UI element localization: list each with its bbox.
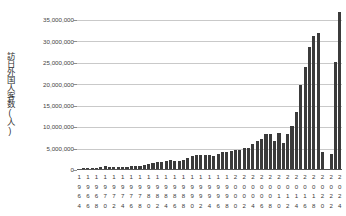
x-tick-digit: 6 — [93, 191, 100, 201]
x-tick-digit: 9 — [171, 182, 178, 192]
chart-container: 訪日外国人客数(人) 35,000,00030,000,00025,000,00… — [0, 0, 346, 216]
x-tick-digit: 9 — [189, 182, 196, 192]
bar — [273, 141, 276, 170]
x-tick-label: 1976 — [128, 172, 135, 210]
y-tick-mark — [73, 20, 77, 21]
x-tick-digit: 1 — [197, 172, 204, 182]
x-tick-label: 1974 — [119, 172, 126, 210]
bar — [299, 85, 302, 170]
x-tick-digit: 8 — [180, 201, 187, 211]
bar — [277, 133, 280, 170]
x-tick-digit: 1 — [154, 172, 161, 182]
bar — [251, 144, 254, 170]
bar — [256, 141, 259, 170]
gridline — [77, 20, 342, 21]
bar — [217, 154, 220, 170]
bar — [308, 47, 311, 170]
bar — [221, 152, 224, 170]
x-tick-label: 2010 — [276, 172, 283, 210]
x-tick-digit: 0 — [302, 182, 309, 192]
y-tick-mark — [73, 41, 77, 42]
bar — [225, 152, 228, 170]
x-tick-digit: 2 — [284, 172, 291, 182]
x-tick-digit: 2 — [328, 172, 335, 182]
x-tick-digit: 1 — [128, 172, 135, 182]
x-tick-label: 1966 — [84, 172, 91, 210]
x-tick-digit: 6 — [302, 201, 309, 211]
x-tick-label: 2012 — [284, 172, 291, 210]
y-tick-mark — [73, 106, 77, 107]
x-tick-digit: 6 — [128, 201, 135, 211]
x-tick-label: 1994 — [206, 172, 213, 210]
x-tick-digit: 9 — [128, 182, 135, 192]
x-tick-digit: 6 — [215, 201, 222, 211]
x-tick-digit: 6 — [84, 201, 91, 211]
x-tick-digit: 2 — [302, 172, 309, 182]
x-tick-digit: 4 — [163, 201, 170, 211]
x-tick-digit: 0 — [249, 191, 256, 201]
y-tick-label: 25,000,000 — [16, 59, 74, 66]
x-tick-digit: 8 — [154, 191, 161, 201]
x-tick-digit: 1 — [310, 191, 317, 201]
bar — [317, 33, 320, 170]
x-tick-label: 2024 — [336, 172, 343, 210]
x-tick-digit: 2 — [319, 191, 326, 201]
x-tick-label: 2006 — [258, 172, 265, 210]
x-tick-label: 1964 — [76, 172, 83, 210]
x-tick-digit: 8 — [145, 191, 152, 201]
gridline — [77, 41, 342, 42]
y-tick-mark — [73, 149, 77, 150]
x-tick-digit: 1 — [93, 172, 100, 182]
bar — [243, 148, 246, 170]
x-tick-digit: 1 — [136, 172, 143, 182]
y-tick-mark — [73, 84, 77, 85]
x-tick-label: 2020 — [319, 172, 326, 210]
x-tick-digit: 4 — [336, 201, 343, 211]
x-tick-digit: 0 — [145, 201, 152, 211]
x-tick-digit: 0 — [336, 182, 343, 192]
x-tick-label: 2014 — [293, 172, 300, 210]
x-tick-digit: 7 — [136, 191, 143, 201]
x-tick-digit: 9 — [180, 182, 187, 192]
x-tick-label: 2008 — [267, 172, 274, 210]
bar — [295, 112, 298, 170]
x-tick-label: 1996 — [215, 172, 222, 210]
x-tick-digit: 2 — [258, 172, 265, 182]
x-tick-digit: 0 — [284, 182, 291, 192]
bar — [238, 150, 241, 170]
x-tick-label: 1998 — [223, 172, 230, 210]
x-tick-digit: 8 — [136, 201, 143, 211]
bar — [334, 62, 337, 170]
x-tick-digit: 9 — [215, 182, 222, 192]
bar — [230, 151, 233, 170]
x-tick-digit: 2 — [284, 201, 291, 211]
x-tick-digit: 0 — [293, 182, 300, 192]
y-tick-label: 15,000,000 — [16, 102, 74, 109]
x-tick-digit: 1 — [189, 172, 196, 182]
x-tick-digit: 8 — [180, 191, 187, 201]
bar — [290, 126, 293, 170]
x-tick-digit: 2 — [197, 201, 204, 211]
bar — [247, 148, 250, 170]
bar — [234, 150, 237, 170]
x-tick-label: 1984 — [163, 172, 170, 210]
x-tick-digit: 7 — [102, 191, 109, 201]
x-tick-digit: 4 — [293, 201, 300, 211]
bar — [269, 134, 272, 170]
x-tick-digit: 0 — [232, 201, 239, 211]
bar — [338, 12, 341, 170]
x-tick-digit: 1 — [119, 172, 126, 182]
x-tick-label: 1990 — [189, 172, 196, 210]
bar — [212, 156, 215, 170]
x-tick-label: 1992 — [197, 172, 204, 210]
x-tick-digit: 0 — [258, 182, 265, 192]
x-tick-digit: 0 — [319, 182, 326, 192]
bar — [286, 134, 289, 170]
x-tick-digit: 0 — [241, 182, 248, 192]
x-tick-digit: 4 — [206, 201, 213, 211]
bar — [204, 155, 207, 170]
x-tick-digit: 0 — [249, 182, 256, 192]
x-tick-digit: 6 — [171, 201, 178, 211]
x-tick-digit: 8 — [267, 201, 274, 211]
x-tick-digit: 2 — [110, 201, 117, 211]
